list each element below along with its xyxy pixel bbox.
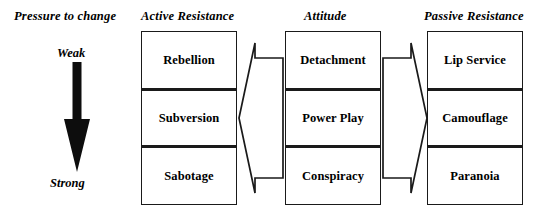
column-active-resistance: Rebellion Subversion Sabotage xyxy=(141,31,237,205)
pressure-strong-label: Strong xyxy=(50,176,85,191)
cell-subversion[interactable]: Subversion xyxy=(141,89,237,147)
cell-label: Conspiracy xyxy=(302,169,364,184)
cell-label: Rebellion xyxy=(163,53,215,68)
passive-resistance-header: Passive Resistance xyxy=(424,9,524,24)
column-attitude: Detachment Power Play Conspiracy xyxy=(285,31,381,205)
column-passive-resistance: Lip Service Camouflage Paranoia xyxy=(427,31,523,205)
cell-label: Sabotage xyxy=(164,169,213,184)
cell-label: Camouflage xyxy=(442,111,508,126)
pressure-weak-label: Weak xyxy=(57,46,85,61)
cell-label: Detachment xyxy=(300,53,366,68)
cell-lip-service[interactable]: Lip Service xyxy=(427,31,523,89)
cell-label: Lip Service xyxy=(444,53,506,68)
pressure-to-change-header: Pressure to change xyxy=(14,9,116,24)
cell-camouflage[interactable]: Camouflage xyxy=(427,89,523,147)
cell-sabotage[interactable]: Sabotage xyxy=(141,147,237,205)
right-arrow-icon xyxy=(381,31,429,205)
cell-paranoia[interactable]: Paranoia xyxy=(427,147,523,205)
cell-label: Paranoia xyxy=(450,169,499,184)
attitude-header: Attitude xyxy=(304,9,347,24)
cell-label: Subversion xyxy=(159,111,220,126)
down-arrow-icon xyxy=(62,62,92,172)
cell-conspiracy[interactable]: Conspiracy xyxy=(285,147,381,205)
cell-detachment[interactable]: Detachment xyxy=(285,31,381,89)
cell-label: Power Play xyxy=(302,111,364,126)
active-resistance-header: Active Resistance xyxy=(141,9,234,24)
diagram-canvas: Pressure to change Active Resistance Att… xyxy=(0,0,543,218)
cell-power-play[interactable]: Power Play xyxy=(285,89,381,147)
cell-rebellion[interactable]: Rebellion xyxy=(141,31,237,89)
left-arrow-icon xyxy=(237,31,285,205)
